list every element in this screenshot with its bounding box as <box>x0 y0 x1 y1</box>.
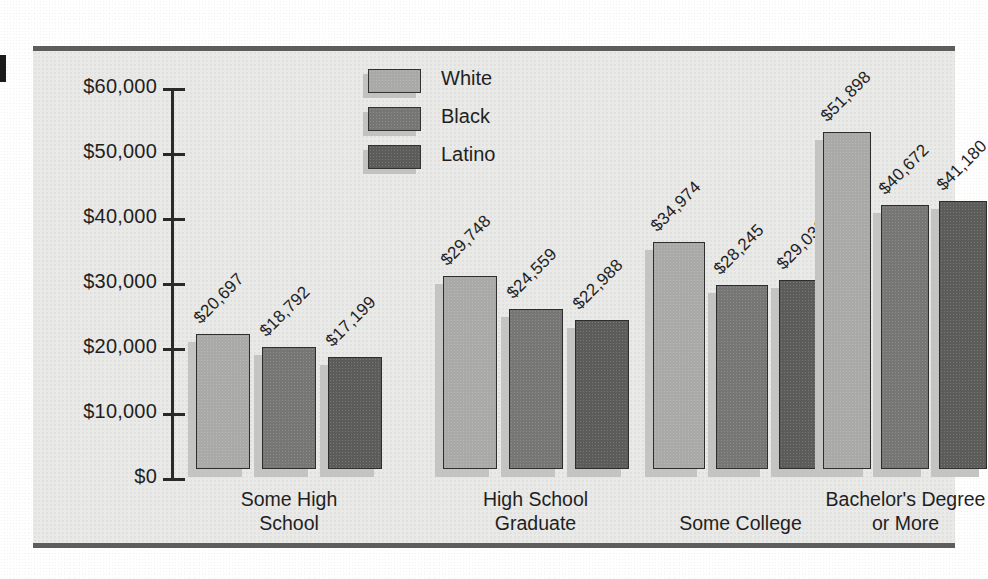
y-axis-tick-label: $20,000 <box>37 335 157 358</box>
bar: $20,697 <box>196 334 250 469</box>
bar-value-label: $17,199 <box>322 293 381 352</box>
bar: $28,245 <box>716 285 768 469</box>
bar-value-label: $20,697 <box>190 270 249 329</box>
y-axis-tick-label: $50,000 <box>37 140 157 163</box>
y-axis-tick <box>163 218 185 221</box>
bar-rect <box>823 132 871 469</box>
bar-value-label: $18,792 <box>256 282 315 341</box>
y-axis-tick <box>163 153 185 156</box>
bar-value-label: $34,974 <box>647 177 706 236</box>
y-axis-tick-label: $60,000 <box>37 75 157 98</box>
bar-rect <box>653 242 705 469</box>
bar-rect <box>328 357 382 469</box>
bar-value-label: $22,988 <box>569 255 628 314</box>
y-axis-tick <box>163 348 185 351</box>
y-axis-tick-label: $10,000 <box>37 400 157 423</box>
bar-value-label: $40,672 <box>875 140 934 199</box>
chart-legend: WhiteBlackLatino <box>363 65 593 179</box>
y-axis-tick-label: $40,000 <box>37 205 157 228</box>
x-axis-category-label: Bachelor's Degree or More <box>783 487 988 535</box>
bar: $41,180 <box>939 201 987 469</box>
bar-rect <box>443 276 497 469</box>
legend-label: Latino <box>441 143 496 166</box>
bar-rect <box>509 309 563 469</box>
bar-rect <box>575 320 629 469</box>
bar-rect <box>196 334 250 469</box>
bar-rect <box>716 285 768 469</box>
x-axis-category-label: Some High School <box>156 487 422 535</box>
chart-figure: $60,000$50,000$40,000$30,000$20,000$10,0… <box>33 46 955 548</box>
page-edge-mark <box>0 55 6 82</box>
y-axis-tick <box>163 88 185 91</box>
bar-rect <box>262 347 316 469</box>
bar-rect <box>881 205 929 469</box>
y-axis-tick <box>163 283 185 286</box>
bar: $18,792 <box>262 347 316 469</box>
bar-value-label: $29,748 <box>437 211 496 270</box>
bar: $40,672 <box>881 205 929 469</box>
bar: $51,898 <box>823 132 871 469</box>
bar-rect <box>939 201 987 469</box>
bar-value-label: $28,245 <box>710 221 769 280</box>
bar: $24,559 <box>509 309 563 469</box>
legend-item-white: White <box>363 65 593 103</box>
y-axis-tick <box>163 413 185 416</box>
legend-swatch <box>368 145 421 169</box>
legend-item-latino: Latino <box>363 141 593 179</box>
y-axis-tick-label: $0 <box>37 465 157 488</box>
bar-value-label: $51,898 <box>817 67 876 126</box>
bar: $34,974 <box>653 242 705 469</box>
legend-label: Black <box>441 105 490 128</box>
bar: $22,988 <box>575 320 629 469</box>
legend-item-black: Black <box>363 103 593 141</box>
legend-swatch <box>368 69 421 93</box>
bar: $29,748 <box>443 276 497 469</box>
legend-swatch <box>368 107 421 131</box>
bar: $17,199 <box>328 357 382 469</box>
legend-label: White <box>441 67 492 90</box>
y-axis-tick <box>163 478 185 481</box>
bar-value-label: $24,559 <box>503 245 562 304</box>
bar-value-label: $41,180 <box>933 137 988 196</box>
plot-area: $60,000$50,000$40,000$30,000$20,000$10,0… <box>33 51 955 543</box>
y-axis-tick-label: $30,000 <box>37 270 157 293</box>
